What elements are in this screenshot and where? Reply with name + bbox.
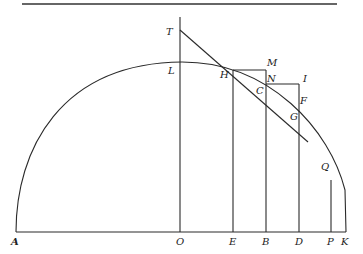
label-K: K	[340, 236, 349, 247]
label-Q: Q	[321, 161, 329, 172]
geometry-diagram: T L M H N I C F G Q A O E B D P K	[0, 0, 363, 254]
label-E: E	[228, 236, 237, 247]
label-B: B	[261, 236, 269, 247]
label-I: I	[302, 73, 308, 84]
semicircle-arc	[16, 62, 346, 232]
label-P: P	[326, 236, 334, 247]
label-D: D	[294, 236, 303, 247]
label-M: M	[266, 57, 278, 68]
tangent-line	[180, 30, 308, 142]
label-H: H	[219, 69, 229, 80]
label-O: O	[176, 236, 184, 247]
label-C: C	[256, 85, 264, 96]
label-T: T	[166, 26, 174, 37]
label-F: F	[299, 95, 308, 106]
label-N: N	[266, 73, 277, 84]
label-L: L	[167, 65, 175, 76]
label-G: G	[290, 111, 298, 122]
label-A: A	[10, 236, 19, 247]
